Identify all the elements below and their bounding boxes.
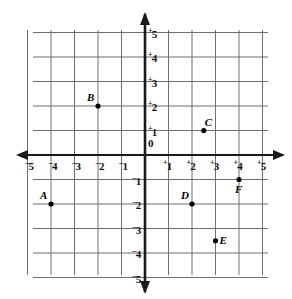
- data-point-e: [213, 238, 218, 243]
- y-axis-arrow-down: [140, 281, 150, 294]
- coordinate-plane-figure: –5–4–3–2–1+1+2+3+4+5+5+4+3+2+10–1–2–3–4–…: [0, 0, 292, 299]
- y-tick-label-plus-5: +5: [148, 27, 157, 40]
- point-label-c: C: [205, 117, 212, 128]
- y-tick-label-minus-2: –2: [133, 198, 141, 211]
- y-axis-arrow-up: [140, 12, 150, 25]
- x-tick-label-–3: –3: [72, 159, 80, 172]
- data-point-f: [236, 177, 241, 182]
- data-point-c: [201, 128, 206, 133]
- point-label-e: E: [220, 235, 227, 246]
- data-point-b: [95, 103, 100, 108]
- x-tick-label-plus-2: +2: [187, 159, 196, 172]
- point-label-a: A: [40, 190, 47, 201]
- y-tick-label-origin: 0: [148, 138, 153, 149]
- x-tick-label-plus-4: +4: [234, 159, 243, 172]
- y-tick-label-minus-4: –4: [133, 247, 141, 260]
- point-label-b: B: [87, 92, 94, 103]
- y-tick-label-plus-1: +1: [148, 125, 157, 138]
- y-tick-label-minus-1: –1: [133, 174, 141, 187]
- point-label-f: F: [235, 184, 242, 195]
- grid-lines: [28, 30, 269, 278]
- data-point-d: [189, 201, 194, 206]
- x-tick-label-–1: –1: [119, 159, 127, 172]
- x-tick-label-plus-1: +1: [163, 159, 172, 172]
- x-tick-label-plus-5: +5: [257, 159, 266, 172]
- x-tick-label-–4: –4: [49, 159, 57, 172]
- coordinate-grid-svg: [0, 0, 292, 299]
- point-label-d: D: [181, 190, 189, 201]
- y-tick-label-minus-5: –5: [133, 272, 141, 285]
- x-tick-label-–2: –2: [96, 159, 104, 172]
- x-tick-label-–5: –5: [25, 159, 33, 172]
- x-tick-label-plus-3: +3: [210, 159, 219, 172]
- data-point-a: [48, 201, 53, 206]
- y-tick-label-minus-3: –3: [133, 223, 141, 236]
- y-tick-label-plus-4: +4: [148, 51, 157, 64]
- y-tick-label-plus-2: +2: [148, 100, 157, 113]
- x-axis-arrow-right: [273, 150, 285, 160]
- y-tick-label-plus-3: +3: [148, 76, 157, 89]
